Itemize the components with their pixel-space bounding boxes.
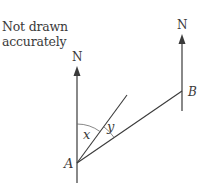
angle-y-label: y: [107, 121, 114, 133]
point-a-label: A: [64, 158, 73, 170]
diagram-canvas: [0, 0, 205, 191]
angle-x-label: x: [83, 129, 90, 141]
north-label-b: N: [177, 19, 188, 31]
north-label-a: N: [72, 51, 83, 63]
north-arrow-icon-a: [74, 66, 81, 76]
north-arrow-icon-b: [179, 34, 186, 44]
point-b-label: B: [188, 86, 197, 98]
